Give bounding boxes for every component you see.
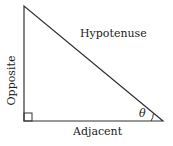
hypotenuse-label: Hypotenuse [80,27,147,40]
adjacent-label: Adjacent [73,125,122,138]
opposite-label: Opposite [5,53,18,109]
angle-arc [151,114,153,121]
triangle [24,6,163,121]
theta-label: θ [139,107,146,120]
right-angle-marker [24,113,32,121]
